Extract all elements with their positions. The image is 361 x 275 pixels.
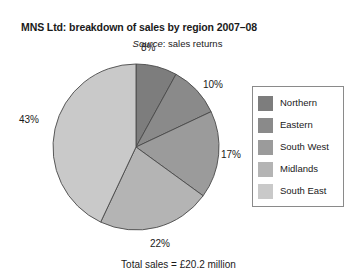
legend-item-label: Midlands bbox=[280, 164, 318, 174]
legend-swatch-icon bbox=[258, 184, 273, 199]
legend-item-northern: Northern bbox=[258, 92, 343, 114]
legend-swatch-icon bbox=[258, 162, 273, 177]
source-text: : sales returns bbox=[163, 38, 223, 49]
legend-item-label: South East bbox=[280, 186, 326, 196]
slice-percent-label-south-west: 17% bbox=[221, 149, 241, 160]
legend-swatch-icon bbox=[258, 118, 273, 133]
legend-swatch-icon bbox=[258, 96, 273, 111]
pie-chart-figure: MNS Ltd: breakdown of sales by region 20… bbox=[0, 0, 361, 275]
pie-chart bbox=[52, 63, 220, 231]
legend-item-south-east: South East bbox=[258, 180, 343, 202]
legend-item-label: South West bbox=[280, 142, 329, 152]
legend-item-label: Eastern bbox=[280, 120, 313, 130]
page-title: MNS Ltd: breakdown of sales by region 20… bbox=[21, 21, 341, 33]
legend-item-south-west: South West bbox=[258, 136, 343, 158]
slice-percent-label-south-east: 43% bbox=[19, 114, 39, 125]
legend: Northern Eastern South West Midlands Sou… bbox=[252, 86, 344, 207]
legend-item-label: Northern bbox=[280, 98, 317, 108]
legend-item-midlands: Midlands bbox=[258, 158, 343, 180]
total-sales-caption: Total sales = £20.2 million bbox=[0, 259, 357, 270]
slice-percent-label-midlands: 22% bbox=[150, 238, 170, 249]
slice-percent-label-eastern: 10% bbox=[203, 79, 223, 90]
legend-item-eastern: Eastern bbox=[258, 114, 343, 136]
legend-swatch-icon bbox=[258, 140, 273, 155]
slice-percent-label-northern: 8% bbox=[141, 42, 155, 53]
pie-svg bbox=[52, 63, 220, 231]
chart-subtitle: Source: sales returns bbox=[0, 38, 355, 49]
